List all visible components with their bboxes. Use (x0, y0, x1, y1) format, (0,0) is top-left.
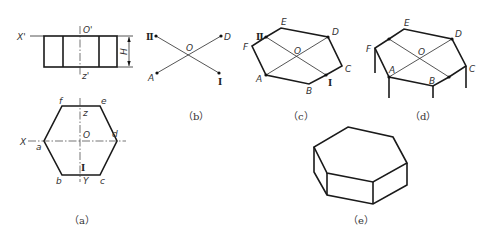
panel-a-front-view: X' O' z' H (16, 25, 133, 81)
label-c: C (345, 64, 352, 74)
label-a: A (388, 65, 395, 75)
panel-d-vertical-edges: E D F O A B C (366, 18, 476, 98)
panel-e-isometric-prism (314, 127, 407, 204)
label-f: F (243, 42, 249, 52)
label-i: Ⅰ (218, 77, 222, 87)
label-z: z (82, 108, 88, 118)
hexagonal-prism-isometric-construction-figure: X' O' z' H X a d f e b c z O Ⅰ Y （a） Ⅱ D… (0, 0, 484, 239)
label-o: O (186, 43, 193, 53)
label-x-prime: X' (16, 32, 26, 42)
label-f-lower: f (59, 96, 64, 106)
point-i (324, 73, 327, 76)
dim-arrow-down-icon (127, 61, 130, 66)
label-d: D (332, 27, 339, 37)
top-face (314, 127, 407, 182)
point-a (155, 71, 158, 74)
label-o: O (83, 130, 90, 140)
front-view-outline (44, 36, 117, 67)
point-d (450, 37, 453, 40)
label-e-lower: e (101, 96, 107, 106)
point-a (387, 75, 390, 78)
label-ii: Ⅱ (146, 32, 154, 42)
label-a-lower: a (36, 142, 42, 152)
panel-b-axes-points: Ⅱ D O A Ⅰ (146, 32, 231, 87)
point-ii (387, 37, 390, 40)
label-z-prime: z' (81, 71, 89, 81)
label-o: O (294, 46, 301, 56)
caption-c: （c） (288, 111, 314, 122)
point-ii (264, 35, 267, 38)
label-c: C (469, 64, 476, 74)
point-i (447, 75, 450, 78)
label-a: A (147, 73, 154, 83)
label-f: F (366, 44, 372, 54)
label-x: X (19, 137, 27, 147)
label-b: B (306, 86, 312, 96)
label-o: O (418, 47, 425, 57)
caption-e: （e） (348, 215, 374, 226)
axis-line-ii-i (156, 36, 219, 73)
label-b-lower: b (56, 176, 62, 186)
visible-bottom-outline (314, 147, 407, 204)
label-ii: Ⅱ (256, 32, 264, 42)
dim-arrow-up-icon (127, 37, 130, 42)
caption-d: （d） (410, 111, 436, 122)
label-height-h: H (119, 48, 129, 55)
label-e: E (404, 18, 410, 28)
point-d (326, 35, 329, 38)
point-a (264, 73, 267, 76)
panel-c-top-face-construction: Ⅱ E D F O C A B Ⅰ (243, 17, 352, 96)
panel-a-top-view: X a d f e b c z O Ⅰ Y (19, 96, 126, 186)
point-ii (154, 34, 157, 37)
label-point-i: Ⅰ (81, 163, 85, 173)
label-d: D (224, 32, 231, 42)
caption-a: （a） (69, 215, 95, 226)
axis-line-a-d (157, 36, 221, 73)
label-c-lower: c (100, 176, 105, 186)
label-d: D (455, 29, 462, 39)
label-a: A (255, 74, 262, 84)
label-e: E (281, 17, 287, 27)
point-d (219, 34, 222, 37)
label-y: Y (83, 176, 90, 186)
label-b: B (429, 76, 435, 86)
label-o-prime: O' (83, 25, 93, 35)
point-i (217, 71, 220, 74)
label-i: Ⅰ (328, 78, 332, 88)
label-d-lower: d (112, 129, 118, 139)
caption-b: （b） (183, 111, 209, 122)
